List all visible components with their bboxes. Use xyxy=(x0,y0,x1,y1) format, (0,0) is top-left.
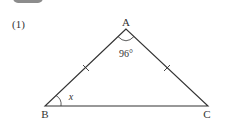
angle-a-value: 96° xyxy=(119,48,133,59)
vertex-label-b: B xyxy=(41,108,48,120)
tick-mark-ab xyxy=(83,65,89,71)
vertex-label-a: A xyxy=(122,16,130,28)
triangle-diagram: (1) A B C 96° x xyxy=(0,0,227,138)
angle-arc-b xyxy=(56,96,61,107)
angle-arc-a xyxy=(118,37,134,41)
angle-b-variable: x xyxy=(68,91,74,102)
problem-number: (1) xyxy=(12,18,25,31)
vertex-label-c: C xyxy=(203,108,210,120)
